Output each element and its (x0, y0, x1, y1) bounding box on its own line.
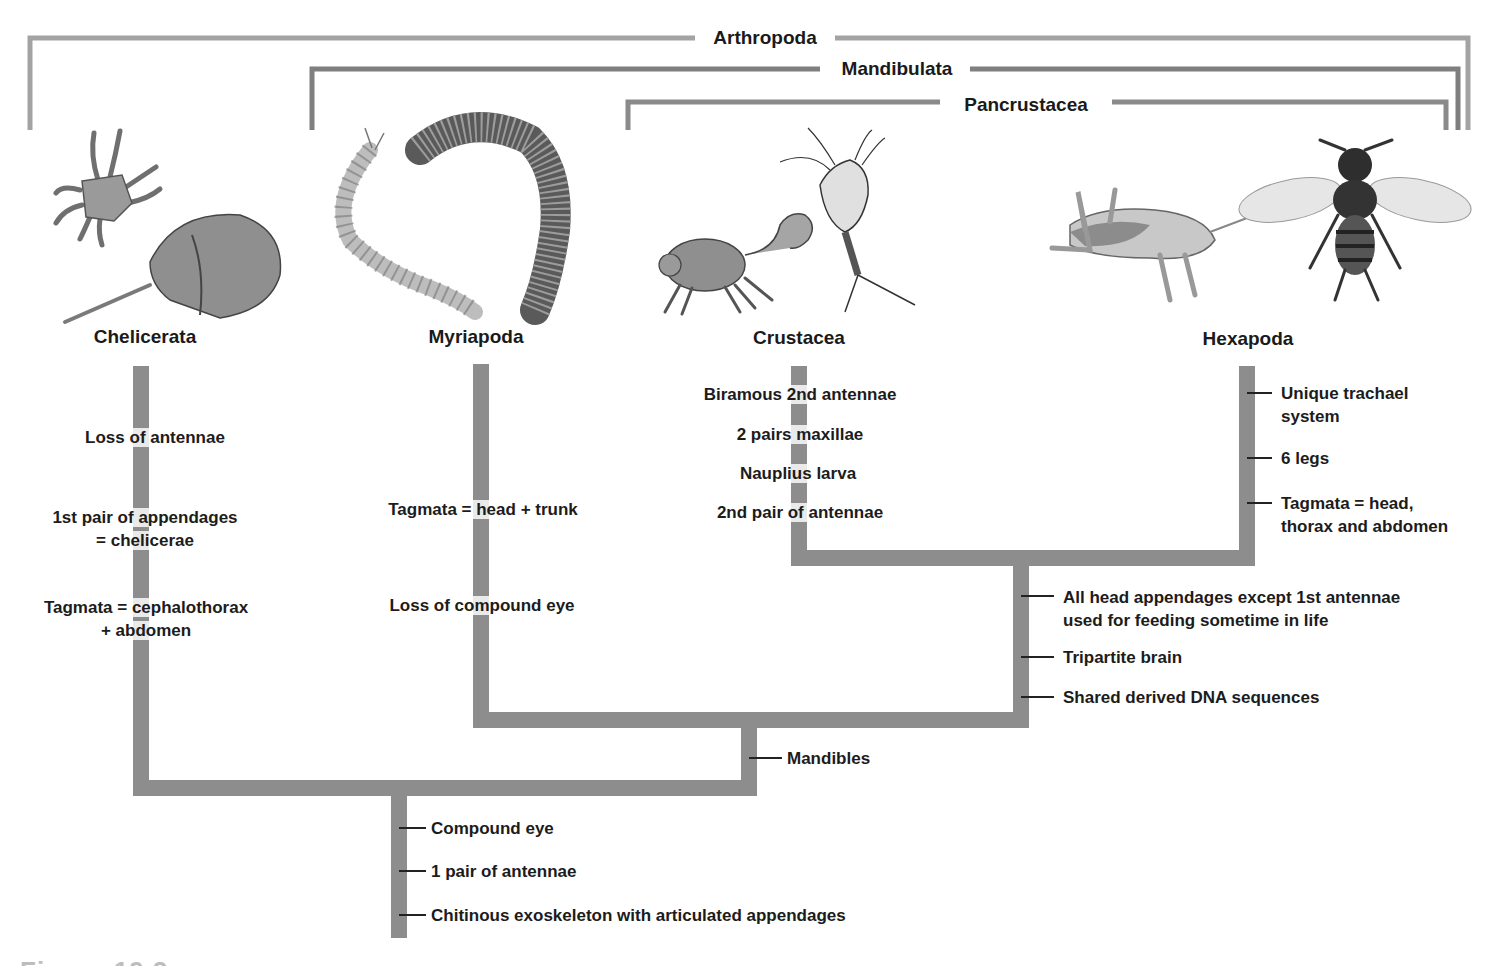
figure-caption-partial: Figure 19.2 (0, 958, 200, 966)
clade-arthropoda: Arthropoda (707, 27, 822, 49)
trait-6-legs: 6 legs (1281, 447, 1329, 470)
trait-2-pairs-maxillae: 2 pairs maxillae (735, 423, 866, 446)
arthropod-cladogram: Arthropoda Mandibulata Pancrustacea Chel… (0, 0, 1495, 966)
taxon-chelicerata: Chelicerata (94, 326, 196, 348)
grasshopper-icon (1052, 190, 1255, 300)
arthropoda-bracket (30, 38, 1468, 130)
crab-icon (659, 214, 812, 314)
trait-2nd-pair-antennae: 2nd pair of antennae (715, 501, 885, 524)
bee-icon (1235, 140, 1475, 300)
trait-loss-of-antennae: Loss of antennae (83, 426, 227, 449)
trait-tagmata-cephalothorax: Tagmata = cephalothorax + abdomen (42, 596, 250, 642)
clade-pancrustacea: Pancrustacea (958, 94, 1094, 116)
trait-tripartite-brain: Tripartite brain (1063, 646, 1182, 669)
clade-mandibulata: Mandibulata (836, 58, 959, 80)
trait-biramous-antennae: Biramous 2nd antennae (702, 383, 899, 406)
trait-loss-of-compound-eye: Loss of compound eye (387, 594, 576, 617)
trait-chitinous-exoskeleton: Chitinous exoskeleton with articulated a… (431, 904, 846, 927)
trait-unique-tracheal-system: Unique trachael system (1281, 382, 1409, 428)
trait-head-appendages-feeding: All head appendages except 1st antennae … (1063, 586, 1400, 632)
trait-mandibles: Mandibles (787, 747, 870, 770)
taxon-crustacea: Crustacea (753, 327, 845, 349)
trait-chelicerae: 1st pair of appendages = chelicerae (50, 506, 239, 552)
taxon-myriapoda: Myriapoda (428, 326, 523, 348)
trait-shared-dna-sequences: Shared derived DNA sequences (1063, 686, 1319, 709)
taxon-hexapoda: Hexapoda (1203, 328, 1294, 350)
trait-compound-eye: Compound eye (431, 817, 554, 840)
trait-tagmata-head-thorax-abdomen: Tagmata = head, thorax and abdomen (1281, 492, 1448, 538)
trait-1-pair-antennae: 1 pair of antennae (431, 860, 576, 883)
trait-nauplius-larva: Nauplius larva (738, 462, 858, 485)
mite-icon (56, 131, 160, 245)
trait-tagmata-head-trunk: Tagmata = head + trunk (386, 498, 580, 521)
